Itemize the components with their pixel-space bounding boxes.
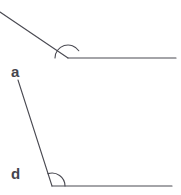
angle-diagram-figure: a d bbox=[0, 0, 181, 195]
top-angle-figure bbox=[0, 12, 176, 58]
bottom-angle-figure bbox=[18, 80, 172, 186]
angle-label-d: d bbox=[11, 166, 20, 181]
angle-arc-bottom-icon bbox=[48, 173, 65, 186]
angle-label-a: a bbox=[11, 64, 19, 79]
descending-diagonal-ray bbox=[0, 12, 68, 58]
slanted-ray-a bbox=[18, 80, 52, 186]
geometry-canvas bbox=[0, 0, 181, 195]
